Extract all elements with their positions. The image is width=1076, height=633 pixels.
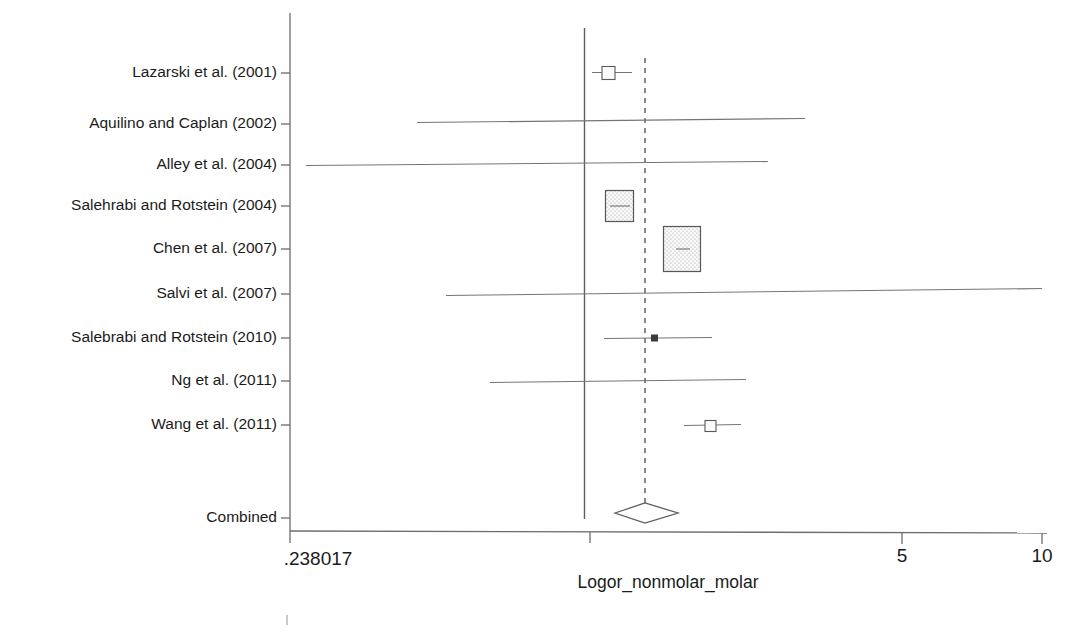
reference-lines-group (585, 28, 646, 519)
forest-plot-figure: Lazarski et al. (2001) Aquilino and Capl… (0, 0, 1076, 633)
confidence-interval-line (490, 380, 746, 383)
x-axis-tick-labels: .238017 5 10 (284, 545, 1053, 569)
confidence-interval-line (417, 119, 805, 123)
study-label-salehrabi-rotstein-2004: Salehrabi and Rotstein (2004) (71, 196, 277, 213)
study-row-ng-2011 (490, 380, 746, 383)
x-axis-spine (290, 531, 1047, 533)
study-row-salebrabi-rotstein-2010 (604, 335, 712, 342)
study-label-salebrabi-rotstein-2010: Salebrabi and Rotstein (2010) (71, 328, 277, 345)
study-label-aquilino-caplan-2002: Aquilino and Caplan (2002) (89, 114, 277, 131)
effect-marker-box (705, 421, 716, 432)
x-tick-label-min: .238017 (284, 548, 353, 569)
x-tick-label-10: 10 (1031, 545, 1052, 566)
study-label-combined: Combined (206, 508, 277, 525)
study-labels-group: Lazarski et al. (2001) Aquilino and Capl… (71, 63, 277, 525)
x-axis-title: Logor_nonmolar_molar (578, 572, 759, 593)
axes-group (290, 13, 1047, 533)
study-row-chen-2007 (664, 227, 701, 272)
study-row-salehrabi-rotstein-2004 (606, 191, 634, 222)
y-axis-ticks (281, 73, 290, 518)
effect-marker-box (602, 67, 615, 80)
study-row-alley-2004 (306, 162, 768, 166)
study-label-salvi-2007: Salvi et al. (2007) (156, 284, 277, 301)
study-row-wang-2011 (684, 421, 741, 432)
forest-plot-svg: Lazarski et al. (2001) Aquilino and Capl… (0, 0, 1076, 633)
study-label-chen-2007: Chen et al. (2007) (153, 239, 277, 256)
study-label-alley-2004: Alley et al. (2004) (156, 155, 277, 172)
confidence-interval-line (306, 162, 768, 166)
combined-effect-diamond (615, 503, 678, 523)
study-row-aquilino-caplan-2002 (417, 119, 805, 123)
study-row-lazarski-2001 (592, 67, 632, 80)
study-label-ng-2011: Ng et al. (2011) (171, 371, 277, 388)
study-label-wang-2011: Wang et al. (2011) (151, 415, 277, 432)
effect-marker-dot (651, 335, 658, 342)
study-row-salvi-2007 (446, 289, 1042, 296)
confidence-interval-line (446, 289, 1042, 296)
combined-row (615, 503, 678, 523)
study-label-lazarski-2001: Lazarski et al. (2001) (132, 63, 277, 80)
x-tick-label-5: 5 (897, 545, 908, 566)
